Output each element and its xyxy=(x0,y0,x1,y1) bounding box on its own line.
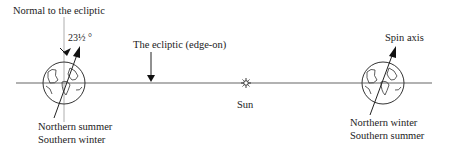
right-caption-line2: Southern summer xyxy=(350,129,424,142)
spin-axis-right-arrowhead xyxy=(389,46,396,58)
angle-label: 23½ ° xyxy=(68,31,92,44)
spin-axis-left-arrowhead xyxy=(73,46,80,58)
right-caption-line1: Northern winter xyxy=(350,116,417,129)
spin-axis-label: Spin axis xyxy=(385,31,424,44)
earth-right xyxy=(362,46,404,115)
sun-label: Sun xyxy=(237,98,253,111)
normal-label: Normal to the ecliptic xyxy=(13,4,105,17)
ecliptic-label: The ecliptic (edge-on) xyxy=(133,38,226,51)
seasons-diagram: Normal to the ecliptic 23½ ° The eclipti… xyxy=(0,0,449,153)
sun-icon xyxy=(241,78,251,88)
left-caption-line2: Southern winter xyxy=(38,133,105,146)
ecliptic-pointer-arrowhead xyxy=(147,75,155,82)
left-caption-line1: Northern summer xyxy=(38,120,112,133)
